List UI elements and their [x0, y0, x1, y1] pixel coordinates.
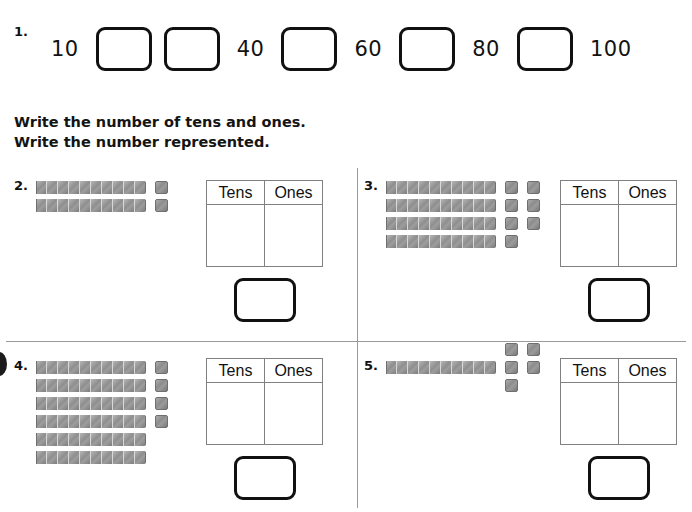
- rod-unit: [36, 361, 47, 374]
- rod-unit: [124, 451, 135, 464]
- ones-cube: [505, 343, 518, 356]
- sequence-blank-1[interactable]: [96, 27, 152, 71]
- ones-cube: [505, 181, 518, 194]
- ones-group: [155, 379, 168, 392]
- tens-rod: [386, 199, 496, 212]
- rod-unit: [386, 199, 397, 212]
- rod-unit: [69, 397, 80, 410]
- rod-unit: [36, 451, 47, 464]
- problem-5-ones-answer-cell[interactable]: [619, 383, 677, 445]
- problem-4-tens-answer-cell[interactable]: [207, 383, 265, 445]
- sequence-number-10: 10: [40, 37, 90, 61]
- ones-group: [505, 217, 540, 230]
- rod-unit: [69, 379, 80, 392]
- problem-5-tens-answer-cell[interactable]: [561, 383, 619, 445]
- ones-cube: [155, 415, 168, 428]
- rod-unit: [452, 361, 463, 374]
- block-row: [386, 196, 540, 214]
- rod-unit: [36, 433, 47, 446]
- rod-unit: [135, 415, 146, 428]
- rod-unit: [397, 235, 408, 248]
- rod-unit: [135, 181, 146, 194]
- rod-unit: [91, 397, 102, 410]
- rod-unit: [441, 199, 452, 212]
- ones-row: [505, 376, 540, 394]
- sequence-blank-3[interactable]: [281, 27, 337, 71]
- rod-unit: [452, 199, 463, 212]
- rod-unit: [408, 181, 419, 194]
- table-header-ones: Ones: [619, 181, 677, 205]
- problem-3-answer-box[interactable]: [588, 278, 650, 322]
- worksheet-page: 1. 10 40 60 80 100 Write the number of t…: [0, 0, 692, 512]
- rod-unit: [419, 361, 430, 374]
- block-row: [36, 394, 168, 412]
- rod-unit: [69, 433, 80, 446]
- problem-5-answer-box[interactable]: [588, 456, 650, 500]
- problem-2-answer-box[interactable]: [234, 278, 296, 322]
- rod-unit: [58, 361, 69, 374]
- sequence-blank-4[interactable]: [399, 27, 455, 71]
- tens-rod: [36, 181, 146, 194]
- rod-unit: [58, 433, 69, 446]
- problem-3-tens-answer-cell[interactable]: [561, 205, 619, 267]
- rod-unit: [91, 379, 102, 392]
- rod-unit: [485, 199, 496, 212]
- problem-3-blocks: [386, 178, 540, 250]
- rod-unit: [135, 433, 146, 446]
- rod-unit: [135, 451, 146, 464]
- problem-3-ones-answer-cell[interactable]: [619, 205, 677, 267]
- sequence-blank-2[interactable]: [164, 27, 220, 71]
- tens-rod: [36, 199, 146, 212]
- rod-unit: [113, 397, 124, 410]
- table-header-ones: Ones: [265, 359, 323, 383]
- problem-2-ones-answer-cell[interactable]: [265, 205, 323, 267]
- rod-unit: [102, 433, 113, 446]
- rod-unit: [452, 235, 463, 248]
- rod-unit: [69, 415, 80, 428]
- block-row: [36, 448, 168, 466]
- rod-unit: [102, 379, 113, 392]
- rod-unit: [452, 217, 463, 230]
- problem-4-answer-box[interactable]: [234, 456, 296, 500]
- ones-cube: [527, 361, 540, 374]
- block-row: [386, 232, 540, 250]
- rod-unit: [386, 235, 397, 248]
- ones-group: [505, 181, 540, 194]
- rod-unit: [474, 361, 485, 374]
- rod-unit: [397, 199, 408, 212]
- rod-unit: [124, 199, 135, 212]
- block-row: [36, 376, 168, 394]
- ones-row: [505, 340, 540, 358]
- tens-rod: [36, 415, 146, 428]
- block-row: [36, 196, 168, 214]
- sequence-exercise: 1. 10 40 60 80 100: [14, 18, 682, 80]
- rod-unit: [113, 199, 124, 212]
- problem-2-tens-ones-table: Tens Ones: [206, 180, 323, 267]
- table-header-tens: Tens: [207, 359, 265, 383]
- sequence-number-40: 40: [226, 37, 276, 61]
- rod-unit: [58, 451, 69, 464]
- rod-unit: [47, 361, 58, 374]
- problem-5-blocks: [386, 358, 540, 376]
- ones-cube: [527, 181, 540, 194]
- rod-unit: [397, 361, 408, 374]
- instructions-block: Write the number of tens and ones. Write…: [14, 112, 306, 152]
- rod-unit: [36, 397, 47, 410]
- rod-unit: [58, 181, 69, 194]
- rod-unit: [463, 361, 474, 374]
- rod-unit: [463, 235, 474, 248]
- rod-unit: [441, 217, 452, 230]
- rod-unit: [135, 361, 146, 374]
- rod-unit: [58, 379, 69, 392]
- problem-2-tens-answer-cell[interactable]: [207, 205, 265, 267]
- sequence-blank-5[interactable]: [517, 27, 573, 71]
- rod-unit: [47, 397, 58, 410]
- ones-cube: [527, 217, 540, 230]
- rod-unit: [80, 415, 91, 428]
- rod-unit: [69, 451, 80, 464]
- block-row: [36, 178, 168, 196]
- rod-unit: [102, 397, 113, 410]
- problem-4-ones-answer-cell[interactable]: [265, 383, 323, 445]
- problem-5-number: 5.: [364, 358, 378, 373]
- block-row: [386, 358, 540, 376]
